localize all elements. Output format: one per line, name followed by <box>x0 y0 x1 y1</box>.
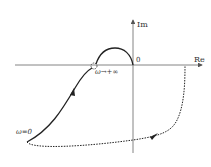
dashed-direction-arrow-icon <box>150 133 158 140</box>
infinite-arc-dashed <box>27 66 185 146</box>
omega-infinity-label: ω→+∞ <box>95 68 118 76</box>
nyquist-diagram: Im Re 0 ω=0 ω→+∞ <box>0 0 211 167</box>
real-axis-label: Re <box>194 55 205 64</box>
imag-axis-label: Im <box>137 20 148 29</box>
nyquist-curve-arc <box>96 48 133 65</box>
origin-label: 0 <box>136 56 140 64</box>
nyquist-curve-lower <box>27 68 92 142</box>
omega-zero-label: ω=0 <box>16 128 33 136</box>
